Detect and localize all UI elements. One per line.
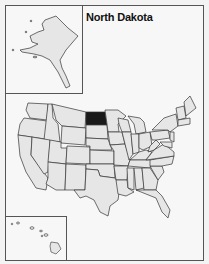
state-new-jersey — [170, 132, 174, 142]
state-pennsylvania — [150, 130, 170, 140]
state-florida — [136, 190, 170, 218]
state-wisconsin — [118, 118, 131, 132]
us-map — [0, 0, 209, 264]
state-kansas — [90, 150, 114, 164]
alaska-shape — [12, 16, 78, 88]
state-washington — [26, 103, 48, 120]
state-south-dakota — [86, 125, 108, 139]
hawaii-shape — [11, 222, 61, 254]
state-wyoming — [61, 126, 86, 145]
state-arizona — [46, 162, 66, 190]
state-maine — [184, 96, 196, 116]
state-new-hampshire-vermont — [176, 106, 186, 120]
contiguous-states — [18, 96, 196, 218]
state-new-york — [152, 114, 178, 132]
state-mississippi — [127, 168, 134, 190]
state-nebraska — [86, 138, 112, 150]
state-new-mexico — [65, 164, 86, 190]
state-north-dakota — [86, 112, 107, 125]
state-colorado — [66, 146, 90, 164]
state-arkansas — [114, 166, 128, 180]
